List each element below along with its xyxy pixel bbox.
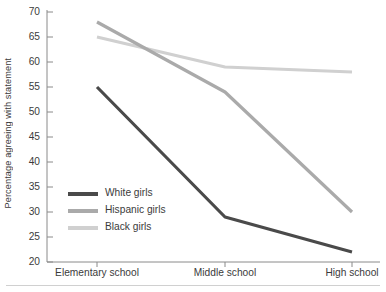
legend-swatch-icon [68,192,98,196]
legend: White girlsHispanic girlsBlack girls [68,185,166,236]
legend-item-hispanic-girls[interactable]: Hispanic girls [68,202,166,219]
legend-swatch-icon [68,226,98,230]
legend-item-label: White girls [105,188,153,198]
series-line-hispanic-girls [97,22,352,212]
legend-item-label: Hispanic girls [105,205,166,215]
legend-item-black-girls[interactable]: Black girls [68,219,166,236]
legend-item-white-girls[interactable]: White girls [68,185,166,202]
plot-area [0,0,386,292]
legend-swatch-icon [68,209,98,213]
legend-item-label: Black girls [105,222,151,232]
bottom-divider [6,285,380,286]
line-chart: Percentage agreeing with statement 70656… [0,0,386,292]
